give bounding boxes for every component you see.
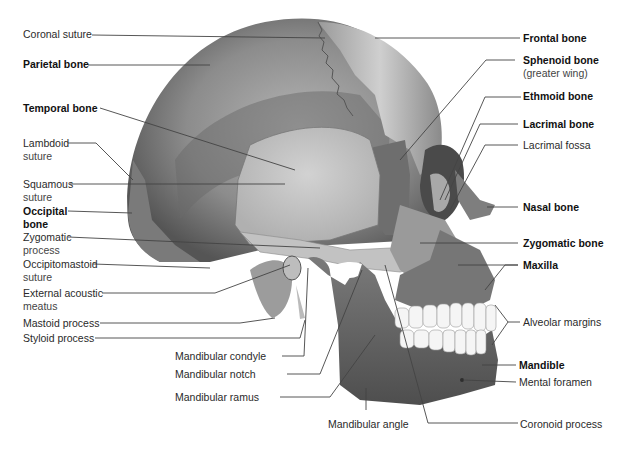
label-lacrimal-bone: Lacrimal bone xyxy=(523,118,594,131)
label-zygomatic-bone: Zygomatic bone xyxy=(523,237,604,250)
label-alveolar-margins: Alveolar margins xyxy=(523,316,601,329)
label-temporal-bone: Temporal bone xyxy=(23,102,97,115)
label-line1: Sphenoid bone xyxy=(523,54,599,66)
temporal-bone-shape xyxy=(235,127,380,245)
teeth xyxy=(395,303,496,355)
label-mandibular-condyle: Mandibular condyle xyxy=(175,350,266,363)
label-mandibular-angle: Mandibular angle xyxy=(328,418,409,431)
label-coronal-suture: Coronal suture xyxy=(23,28,92,41)
styloid-shape xyxy=(296,285,305,319)
label-line1: Occipital xyxy=(23,205,67,217)
label-frontal-bone: Frontal bone xyxy=(523,32,587,45)
label-line1: Squamous xyxy=(23,178,73,190)
label-maxilla: Maxilla xyxy=(523,259,558,272)
label-line2: suture xyxy=(23,191,73,204)
label-line1: Zygomatic xyxy=(23,231,71,243)
label-lambdoid-suture: Lambdoidsuture xyxy=(23,137,69,162)
external-acoustic-meatus-shape xyxy=(283,256,301,280)
label-parietal-bone: Parietal bone xyxy=(23,58,89,71)
label-occipitomastoid-suture: Occipitomastoidsuture xyxy=(23,258,98,283)
label-external-acoustic-meatus: External acousticmeatus xyxy=(23,287,103,312)
label-zygomatic-process: Zygomaticprocess xyxy=(23,231,71,256)
label-line2: process xyxy=(23,244,71,257)
label-line1: Occipitomastoid xyxy=(23,258,98,270)
label-mandible: Mandible xyxy=(519,359,565,372)
label-ethmoid-bone: Ethmoid bone xyxy=(523,90,593,103)
label-lacrimal-fossa: Lacrimal fossa xyxy=(523,139,591,152)
label-mental-foramen: Mental foramen xyxy=(519,376,592,389)
nasal-bone-shape xyxy=(455,170,495,220)
label-line2: (greater wing) xyxy=(523,67,599,80)
label-line1: External acoustic xyxy=(23,287,103,299)
label-sphenoid-bone: Sphenoid bone(greater wing) xyxy=(523,54,599,79)
label-squamous-suture: Squamoussuture xyxy=(23,178,73,203)
label-mastoid-process: Mastoid process xyxy=(23,317,99,330)
label-line2: suture xyxy=(23,271,98,284)
label-coronoid-process: Coronoid process xyxy=(520,418,602,431)
label-line1: Lambdoid xyxy=(23,137,69,149)
label-occipital-bone: Occipitalbone xyxy=(23,205,67,230)
label-styloid-process: Styloid process xyxy=(23,332,94,345)
label-line2: bone xyxy=(23,218,67,231)
label-line2: meatus xyxy=(23,300,103,313)
label-nasal-bone: Nasal bone xyxy=(523,201,579,214)
label-mandibular-ramus: Mandibular ramus xyxy=(175,391,259,404)
label-line2: suture xyxy=(23,150,69,163)
label-mandibular-notch: Mandibular notch xyxy=(175,368,256,381)
